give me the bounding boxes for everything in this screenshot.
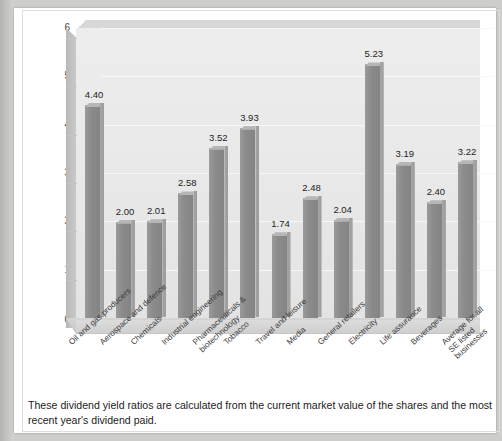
bar-side-face — [224, 146, 228, 317]
bar-front-face — [458, 162, 473, 320]
bar-value-label-4: 3.52 — [200, 132, 236, 143]
bar-front-face — [272, 234, 287, 320]
bar-12: 3.22 — [458, 163, 475, 320]
bar-side-face — [162, 219, 166, 317]
bar-top-face — [147, 219, 162, 223]
bar-top-face — [116, 220, 131, 224]
bar-front-face — [334, 220, 349, 320]
bar-front-face — [240, 128, 255, 320]
bar-side-face — [411, 162, 415, 317]
bar-9: 5.23 — [365, 65, 382, 320]
bar-front-face — [365, 64, 380, 320]
bar-front-face — [396, 164, 411, 320]
bar-top-face — [365, 62, 380, 66]
bar-top-face — [178, 191, 193, 195]
bar-10: 3.19 — [396, 165, 413, 320]
scanned-page: 6 5 4 3 2 1 0 Per cent — [0, 0, 502, 441]
bar-side-face — [193, 191, 197, 317]
bar-value-label-12: 3.22 — [449, 146, 485, 157]
bar-11: 2.40 — [427, 203, 444, 320]
bar-side-face — [131, 220, 135, 317]
bar-value-label-9: 5.23 — [356, 48, 392, 59]
bar-side-face — [442, 200, 446, 317]
bar-top-face — [458, 160, 473, 164]
bar-side-face — [287, 232, 291, 317]
bar-value-label-2: 2.01 — [138, 205, 174, 216]
chart-plot-container: 6 5 4 3 2 1 0 Per cent — [52, 20, 482, 336]
bar-front-face — [178, 193, 193, 320]
chart-figure: 6 5 4 3 2 1 0 Per cent — [28, 14, 494, 392]
bar-side-face — [473, 160, 477, 317]
bar-value-label-5: 3.93 — [231, 112, 267, 123]
bar-value-label-0: 4.40 — [76, 89, 112, 100]
bar-side-face — [349, 218, 353, 317]
bar-value-label-7: 2.48 — [294, 182, 330, 193]
bar-top-face — [396, 162, 411, 166]
bar-top-face — [85, 103, 100, 107]
page-sheet: 6 5 4 3 2 1 0 Per cent — [14, 8, 496, 433]
bar-top-face — [209, 146, 224, 150]
bar-top-face — [427, 200, 442, 204]
bar-side-face — [255, 126, 259, 317]
bar-side-face — [318, 196, 322, 317]
bar-3: 2.58 — [178, 194, 195, 320]
bar-front-face — [427, 202, 442, 320]
bar-0: 4.40 — [85, 106, 102, 320]
bar-top-face — [303, 196, 318, 200]
bar-value-label-6: 1.74 — [263, 218, 299, 229]
bar-5: 3.93 — [240, 129, 257, 320]
bar-side-face — [380, 62, 384, 317]
bar-series: 4.402.002.012.583.523.931.742.482.045.23… — [76, 28, 480, 320]
x-axis-labels: Oil and gas producersAerospace and defen… — [28, 336, 494, 392]
bar-top-face — [334, 218, 349, 222]
bar-value-label-3: 2.58 — [169, 177, 205, 188]
bar-value-label-10: 3.19 — [387, 148, 423, 159]
bar-8: 2.04 — [334, 221, 351, 320]
bar-value-label-11: 2.40 — [418, 186, 454, 197]
bar-value-label-8: 2.04 — [325, 204, 361, 215]
bar-top-face — [272, 232, 287, 236]
bar-6: 1.74 — [272, 235, 289, 320]
bar-top-face — [240, 126, 255, 130]
bar-front-face — [85, 105, 100, 320]
bar-side-face — [100, 103, 104, 317]
figure-caption: These dividend yield ratios are calculat… — [28, 396, 494, 432]
